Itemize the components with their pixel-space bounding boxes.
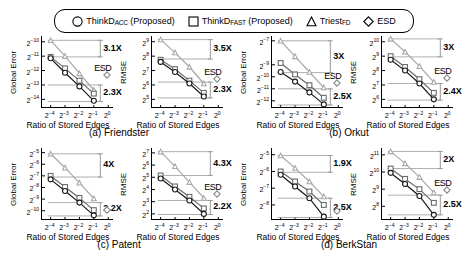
y-tick-label: 2−6 [259, 167, 269, 176]
legend: ThinkDACC (Proposed)ThinkDFAST (Proposed… [54, 9, 414, 33]
y-tick-label: 2−10 [27, 206, 39, 215]
data-point-circle [431, 212, 436, 217]
annotation-bracket [48, 40, 103, 57]
y-tick-label: 2−6 [29, 160, 39, 169]
series-line-thinkd_fast [51, 57, 94, 94]
x-tick-label: 2−2 [184, 222, 194, 231]
data-point-square [293, 179, 298, 184]
esd-offscale-marker-icon [333, 201, 341, 219]
series-line-thinkd_fast [281, 171, 324, 205]
data-point-circle [388, 57, 393, 62]
y-tick-label: 28 [372, 202, 379, 211]
triangle-marker-icon [306, 16, 317, 27]
x-tick-label: 20 [104, 110, 111, 119]
data-point-square [431, 90, 436, 95]
y-tick-label: 23 [142, 197, 149, 206]
data-point-circle [91, 98, 96, 103]
data-point-circle [158, 176, 163, 181]
series-line-thinkd_acc [51, 179, 94, 215]
series-line-triest_fd [281, 41, 324, 88]
x-tick-label: 20 [214, 222, 221, 231]
data-point-circle [48, 177, 53, 182]
series-line-triest_fd [161, 40, 204, 84]
series-line-thinkd_acc [391, 60, 434, 100]
x-tick-label: 2−3 [169, 110, 179, 119]
figure-root: ThinkDACC (Proposed)ThinkDFAST (Proposed… [0, 0, 465, 273]
data-point-square [201, 206, 206, 211]
y-tick-label: 211 [370, 150, 379, 159]
annotation-bracket [158, 152, 213, 176]
y-tick-label: 27 [372, 80, 379, 89]
plot-area [41, 148, 113, 220]
y-tick-label: 27 [142, 148, 149, 157]
data-point-circle [77, 200, 82, 205]
data-point-circle [293, 184, 298, 189]
annotation-bracket [388, 151, 443, 168]
data-point-triangle [388, 36, 393, 41]
caption-berkstan: (d) BerkStan [238, 239, 460, 250]
y-tick-label: 2−8 [29, 183, 39, 192]
data-point-circle [187, 198, 192, 203]
y-tick-label: 25 [142, 173, 149, 182]
data-point-square [278, 61, 283, 66]
data-point-square [307, 83, 312, 88]
x-tick-label: 2−3 [59, 222, 69, 231]
x-tick-label: 2−2 [414, 110, 424, 119]
y-tick-label: 2−10 [257, 72, 269, 81]
series-line-thinkd_acc [281, 72, 324, 104]
x-tick-label: 2−3 [399, 110, 409, 119]
x-tick-label: 2−4 [275, 222, 285, 231]
series-line-thinkd_fast [161, 176, 204, 209]
legend-thinkd-acc: ThinkDACC (Proposed) [72, 16, 175, 27]
data-point-square [431, 200, 436, 205]
annotation-bracket [388, 39, 443, 57]
caption-patent: (c) Patent [8, 239, 230, 250]
y-tick-label: 26 [142, 80, 149, 89]
y-tick-label: 28 [142, 51, 149, 60]
x-tick-label: 20 [334, 110, 341, 119]
data-point-circle [201, 211, 206, 216]
annotation-bracket [278, 156, 333, 173]
series-line-thinkd_fast [51, 176, 94, 210]
y-tick-label: 29 [142, 37, 149, 46]
data-point-circle [77, 84, 82, 89]
data-point-circle [307, 196, 312, 201]
y-tick-label: 24 [142, 185, 149, 194]
y-tick-label: 210 [370, 167, 379, 176]
x-tick-label: 2−1 [198, 222, 208, 231]
x-tick-label: 2−2 [74, 222, 84, 231]
y-tick-label: 2−7 [259, 36, 269, 45]
y-tick-label: 29 [372, 184, 379, 193]
caption-friendster: (a) Friendster [8, 127, 230, 138]
x-tick-label: 2−1 [318, 110, 328, 119]
data-point-circle [48, 56, 53, 61]
annotation-bracket [158, 40, 213, 59]
y-tick-label: 29 [372, 51, 379, 60]
y-tick-label: 2−12 [257, 96, 269, 105]
series-line-thinkd_acc [161, 62, 204, 97]
legend-thinkd-acc-label: ThinkDACC (Proposed) [86, 16, 175, 26]
y-tick-label: 2−8 [259, 200, 269, 209]
x-tick-label: 2−2 [74, 110, 84, 119]
y-tick-label: 27 [142, 66, 149, 75]
data-point-circle [403, 68, 408, 73]
esd-offscale-label: ESD [324, 71, 341, 81]
y-axis-ticks: 2−52−62−72−8 [248, 146, 270, 222]
plot-area [271, 148, 343, 220]
esd-offscale-label: ESD [434, 66, 451, 76]
series-line-thinkd_acc [281, 175, 324, 217]
x-tick-label: 20 [214, 110, 221, 119]
data-point-square [91, 91, 96, 96]
data-point-circle [417, 194, 422, 199]
y-tick-label: 2−9 [259, 60, 269, 69]
data-point-circle [201, 94, 206, 99]
data-point-circle [278, 70, 283, 75]
y-axis-ticks: 2928272625 [128, 34, 150, 110]
y-axis-ticks: 2−52−62−72−82−92−10 [18, 146, 40, 222]
y-tick-label: 2−12 [27, 66, 39, 75]
y-tick-label: 2−13 [27, 80, 39, 89]
y-tick-label: 2−7 [259, 184, 269, 193]
legend-esd-label: ESD [377, 16, 396, 26]
y-tick-label: 2−7 [29, 171, 39, 180]
x-tick-label: 2−3 [399, 222, 409, 231]
